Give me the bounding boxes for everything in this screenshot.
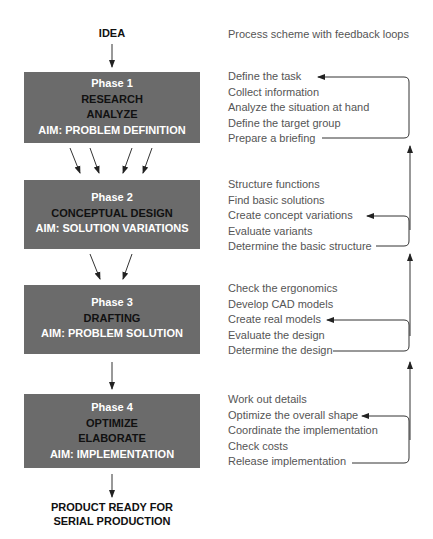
- feedback-loop-3: [327, 320, 409, 351]
- arrow-down-icon: [143, 148, 152, 173]
- feedback-loop-1: [318, 77, 409, 138]
- arrow-down-icon: [90, 254, 100, 279]
- connector-arrows: [0, 0, 433, 539]
- feedback-loop-2: [367, 216, 409, 246]
- arrow-down-icon: [123, 148, 132, 173]
- arrow-down-icon: [70, 148, 80, 173]
- arrow-down-icon: [90, 148, 99, 173]
- arrow-down-icon: [123, 254, 132, 279]
- feedback-loop-4: [352, 416, 409, 463]
